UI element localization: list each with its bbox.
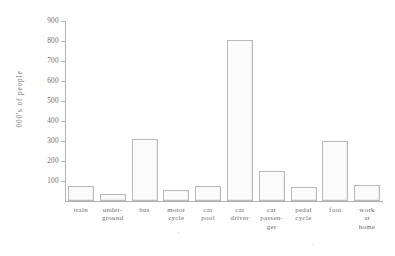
bar: [291, 187, 317, 201]
bar: [132, 139, 158, 201]
bar-group: work at home: [354, 21, 380, 201]
bar: [227, 40, 253, 201]
y-tick-label: 800: [47, 36, 59, 45]
bar-chart: 000's of people 900800700600500400300200…: [0, 0, 395, 256]
bar-group: car passen- ger: [259, 21, 285, 201]
bar-group: pedal cycle: [291, 21, 317, 201]
scan-artifact: [178, 232, 179, 233]
bar-group: car pool: [195, 21, 221, 201]
x-axis-line: [65, 201, 383, 202]
bar: [163, 190, 189, 201]
y-axis-title: 000's of people: [16, 49, 24, 149]
bar-series: trainunder- groundbusmotor cyclecar pool…: [65, 21, 383, 201]
y-tick-label: 300: [47, 136, 59, 145]
y-tick-label: 900: [47, 16, 59, 25]
y-tick-label: 200: [47, 156, 59, 165]
bar: [354, 185, 380, 201]
scan-artifact: [312, 244, 313, 245]
y-tick-label: 400: [47, 116, 59, 125]
bar-group: car driver: [227, 21, 253, 201]
bar: [322, 141, 348, 201]
plot-area: 900800700600500400300200100 trainunder- …: [65, 21, 383, 201]
bar-group: motor cycle: [163, 21, 189, 201]
y-tick-label: 700: [47, 56, 59, 65]
bar: [68, 186, 94, 201]
bar-group: bus: [132, 21, 158, 201]
y-tick-label: 600: [47, 76, 59, 85]
bar-group: foot: [322, 21, 348, 201]
y-tick-label: 500: [47, 96, 59, 105]
bar-group: train: [68, 21, 94, 201]
bar: [195, 186, 221, 201]
bar-group: under- ground: [100, 21, 126, 201]
y-tick-label: 100: [47, 176, 59, 185]
bar: [100, 194, 126, 201]
x-tick-label: work at home: [345, 206, 389, 231]
bar: [259, 171, 285, 201]
